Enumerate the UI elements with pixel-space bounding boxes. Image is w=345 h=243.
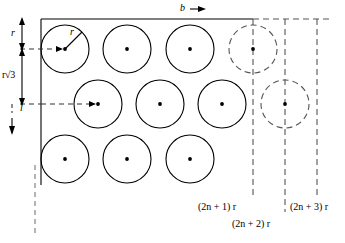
center-dot-r1c4 <box>251 47 255 51</box>
center-dot-r2c1 <box>96 102 100 106</box>
dim-l-arrow-down <box>9 126 15 135</box>
label-r-top: r <box>11 28 15 38</box>
center-dot-r2c3 <box>220 102 224 106</box>
label-column-2n-plus-3: (2n + 3) r <box>290 202 328 212</box>
label-l: l <box>20 103 23 113</box>
label-r-radius: r <box>70 27 74 37</box>
packing-diagram-figure: b r r r√3 l (2n + 1) r (2n + 3) r (2n + … <box>0 0 345 243</box>
label-r-sqrt-3: r√3 <box>2 70 15 80</box>
center-dot-r2c4 <box>283 102 287 106</box>
label-b: b <box>180 3 185 13</box>
dim-b-arrow-right <box>198 6 206 12</box>
center-dot-r1c2 <box>125 47 129 51</box>
center-dot-r3c1 <box>63 157 67 161</box>
dim-r-arrow-up <box>19 17 25 25</box>
center-dot-r1c3 <box>188 47 192 51</box>
label-column-2n-plus-2: (2n + 2) r <box>232 219 270 229</box>
center-dot-r2c2 <box>158 102 162 106</box>
label-column-2n-plus-1: (2n + 1) r <box>198 202 236 212</box>
center-dot-r3c2 <box>125 157 129 161</box>
center-dot-r3c3 <box>188 157 192 161</box>
